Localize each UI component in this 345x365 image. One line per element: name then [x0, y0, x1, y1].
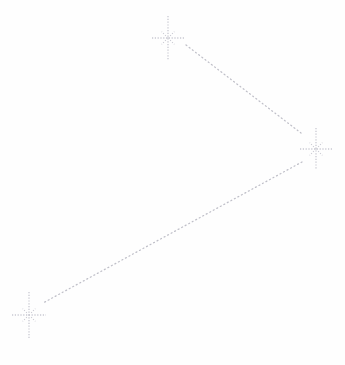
diagram-background: [0, 0, 345, 365]
constellation-diagram: [0, 0, 345, 365]
diagram-canvas: [0, 0, 345, 365]
